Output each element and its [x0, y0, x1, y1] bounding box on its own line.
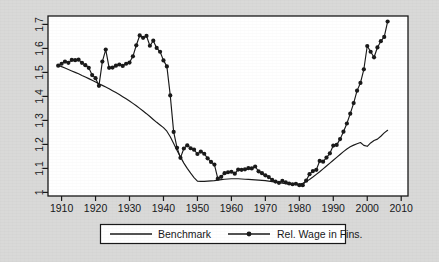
data-point-marker [80, 61, 84, 65]
legend-label-rel-wage-in-fins: Rel. Wage in Fins. [277, 228, 362, 240]
y-tick-label: 1.1 [33, 161, 45, 176]
data-point-marker [233, 172, 237, 176]
data-point-marker [93, 76, 97, 80]
y-tick-label: 1.5 [33, 65, 45, 80]
data-point-marker [372, 55, 376, 59]
y-tick-label: 1.6 [33, 41, 45, 56]
data-point-marker [66, 61, 70, 65]
data-point-marker [131, 54, 135, 58]
x-tick-label: 1920 [84, 202, 108, 214]
x-tick-label: 1910 [50, 202, 74, 214]
data-point-marker [365, 44, 369, 48]
x-tick-label: 1960 [220, 202, 244, 214]
chart-legend: Benchmark Rel. Wage in Fins. [101, 225, 363, 244]
data-point-marker [161, 58, 165, 62]
data-point-marker [341, 130, 345, 134]
data-point-marker [348, 112, 352, 116]
data-point-marker [209, 160, 213, 164]
data-point-marker [83, 63, 87, 67]
data-point-marker [175, 146, 179, 150]
plot-area [48, 16, 408, 196]
y-tick-label: 1 [33, 189, 45, 195]
data-point-marker [375, 45, 379, 49]
data-point-marker [338, 137, 342, 141]
data-point-marker [148, 44, 152, 48]
data-point-marker [328, 151, 332, 155]
data-point-marker [253, 164, 257, 168]
x-tick-label: 2000 [356, 202, 380, 214]
data-point-marker [100, 60, 104, 64]
x-tick-label: 1930 [118, 202, 142, 214]
data-point-marker [158, 50, 162, 54]
data-point-marker [185, 143, 189, 147]
data-point-marker [358, 81, 362, 85]
data-point-marker [182, 146, 186, 150]
data-point-marker [301, 183, 305, 187]
data-point-marker [195, 152, 199, 156]
data-point-marker [168, 93, 172, 97]
data-point-marker [151, 39, 155, 43]
y-tick-label: 1.4 [33, 89, 45, 104]
data-point-marker [386, 19, 390, 23]
data-point-marker [155, 46, 159, 50]
legend-label-benchmark: Benchmark [158, 228, 212, 240]
data-point-marker [352, 101, 356, 105]
data-point-marker [104, 48, 108, 52]
y-tick-label: 1.7 [33, 17, 45, 32]
x-axis-tick-labels: 1910192019301940195019601970198019902000… [50, 202, 413, 214]
x-tick-label: 1990 [322, 202, 346, 214]
data-point-marker [362, 67, 366, 71]
data-point-marker [321, 160, 325, 164]
data-point-marker [138, 33, 142, 37]
y-tick-label: 1.3 [33, 113, 45, 128]
data-point-marker [172, 130, 176, 134]
data-point-marker [307, 172, 311, 176]
figure-container: 11.11.21.31.41.51.61.7 19101920193019401… [0, 0, 439, 262]
data-point-marker [165, 64, 169, 68]
data-point-marker [379, 39, 383, 43]
data-point-marker [219, 175, 223, 179]
chart-svg: 11.11.21.31.41.51.61.7 19101920193019401… [0, 0, 439, 262]
data-point-marker [314, 168, 318, 172]
data-point-marker [335, 143, 339, 147]
x-tick-label: 1940 [152, 202, 176, 214]
data-point-marker [178, 156, 182, 160]
data-point-marker [202, 152, 206, 156]
data-point-marker [206, 156, 210, 160]
x-tick-label: 1950 [186, 202, 210, 214]
data-point-marker [369, 50, 373, 54]
data-point-marker [87, 66, 91, 70]
data-point-marker [324, 156, 328, 160]
x-tick-label: 2010 [390, 202, 414, 214]
x-tick-label: 1980 [288, 202, 312, 214]
data-point-marker [127, 60, 131, 64]
data-point-marker [267, 175, 271, 179]
y-tick-label: 1.2 [33, 137, 45, 152]
data-point-marker [144, 34, 148, 38]
data-point-marker [192, 148, 196, 152]
data-point-marker [304, 179, 308, 183]
data-point-marker [212, 162, 216, 166]
data-point-marker [134, 43, 138, 47]
data-point-marker [345, 121, 349, 125]
data-point-marker [382, 35, 386, 39]
data-point-marker [97, 84, 101, 88]
data-point-marker [355, 89, 359, 93]
x-tick-label: 1970 [254, 202, 278, 214]
data-point-marker [90, 73, 94, 77]
legend-marker-rel-wage-in-fins [247, 232, 252, 237]
data-point-marker [76, 58, 80, 62]
